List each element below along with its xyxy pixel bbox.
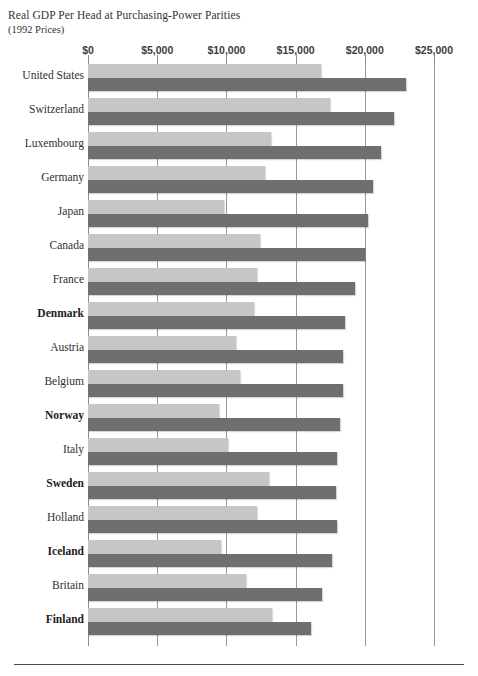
category-label-sweden: Sweden <box>0 476 84 490</box>
bar-dark-united-states <box>88 78 406 91</box>
bar-light-japan <box>88 200 224 214</box>
category-label-japan: Japan <box>0 204 84 218</box>
bar-row: Holland <box>0 504 478 538</box>
bar-dark-japan <box>88 214 368 227</box>
bar-dark-norway <box>88 418 340 431</box>
axis-tick-mark-15000 <box>296 55 297 62</box>
bar-dark-finland <box>88 622 311 635</box>
category-label-finland: Finland <box>0 612 84 626</box>
bar-light-denmark <box>88 302 254 316</box>
bar-dark-sweden <box>88 486 336 499</box>
bar-dark-canada <box>88 248 365 261</box>
bar-light-france <box>88 268 257 282</box>
category-label-belgium: Belgium <box>0 374 84 388</box>
title-block: Real GDP Per Head at Purchasing-Power Pa… <box>8 8 448 37</box>
category-label-austria: Austria <box>0 340 84 354</box>
axis-tick-mark-5000 <box>157 55 158 62</box>
bar-row: United States <box>0 62 478 96</box>
axis-tick-mark-25000 <box>434 55 435 62</box>
axis-tick-mark-10000 <box>226 55 227 62</box>
bar-dark-italy <box>88 452 337 465</box>
bar-light-united-states <box>88 64 321 78</box>
bar-light-canada <box>88 234 260 248</box>
bar-row: Germany <box>0 164 478 198</box>
bar-rows: United StatesSwitzerlandLuxembourgGerman… <box>0 62 478 646</box>
bar-light-switzerland <box>88 98 330 112</box>
bar-row: Sweden <box>0 470 478 504</box>
bar-dark-belgium <box>88 384 343 397</box>
bar-light-germany <box>88 166 265 180</box>
category-label-norway: Norway <box>0 408 84 422</box>
footer-divider <box>14 664 464 665</box>
bar-light-luxembourg <box>88 132 271 146</box>
bar-light-finland <box>88 608 272 622</box>
bar-row: Denmark <box>0 300 478 334</box>
chart-subtitle: (1992 Prices) <box>8 23 448 37</box>
bar-light-holland <box>88 506 257 520</box>
bar-row: Iceland <box>0 538 478 572</box>
page-title: Real GDP Per Head at Purchasing-Power Pa… <box>8 8 448 23</box>
category-label-germany: Germany <box>0 170 84 184</box>
bar-row: Switzerland <box>0 96 478 130</box>
gdp-per-head-chart: Real GDP Per Head at Purchasing-Power Pa… <box>0 0 478 676</box>
bar-row: Britain <box>0 572 478 606</box>
bar-light-sweden <box>88 472 269 486</box>
category-label-iceland: Iceland <box>0 544 84 558</box>
category-label-switzerland: Switzerland <box>0 102 84 116</box>
bar-dark-austria <box>88 350 343 363</box>
category-label-holland: Holland <box>0 510 84 524</box>
x-axis-tick-labels: $0$5,000$10,000$15,000$20,000$25,000 <box>0 44 478 60</box>
bar-dark-britain <box>88 588 322 601</box>
plot-area: United StatesSwitzerlandLuxembourgGerman… <box>0 62 478 646</box>
bar-row: Canada <box>0 232 478 266</box>
axis-tick-mark-20000 <box>365 55 366 62</box>
bar-dark-switzerland <box>88 112 394 125</box>
bar-row: Luxembourg <box>0 130 478 164</box>
bar-row: France <box>0 266 478 300</box>
bar-row: Italy <box>0 436 478 470</box>
bar-dark-iceland <box>88 554 332 567</box>
bar-light-britain <box>88 574 246 588</box>
bar-dark-france <box>88 282 355 295</box>
category-label-italy: Italy <box>0 442 84 456</box>
bar-light-belgium <box>88 370 240 384</box>
bar-light-italy <box>88 438 228 452</box>
bar-row: Norway <box>0 402 478 436</box>
category-label-canada: Canada <box>0 238 84 252</box>
bar-row: Belgium <box>0 368 478 402</box>
bar-row: Austria <box>0 334 478 368</box>
category-label-britain: Britain <box>0 578 84 592</box>
bar-dark-luxembourg <box>88 146 381 159</box>
bar-dark-germany <box>88 180 373 193</box>
category-label-denmark: Denmark <box>0 306 84 320</box>
bar-row: Finland <box>0 606 478 640</box>
category-label-france: France <box>0 272 84 286</box>
bar-light-norway <box>88 404 219 418</box>
bar-dark-denmark <box>88 316 345 329</box>
axis-tick-mark-0 <box>88 55 89 62</box>
bar-dark-holland <box>88 520 337 533</box>
category-label-luxembourg: Luxembourg <box>0 136 84 150</box>
category-label-united-states: United States <box>0 68 84 82</box>
bar-light-iceland <box>88 540 221 554</box>
bar-row: Japan <box>0 198 478 232</box>
bar-light-austria <box>88 336 236 350</box>
